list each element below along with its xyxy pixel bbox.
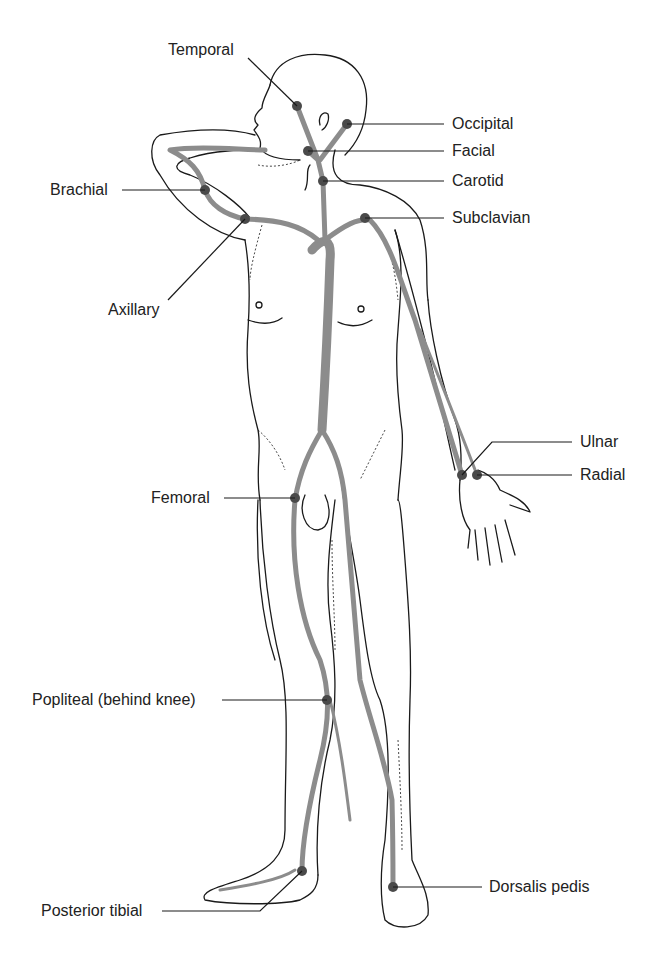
- label-dorsalis-pedis: Dorsalis pedis: [489, 879, 589, 895]
- label-brachial: Brachial: [50, 182, 108, 198]
- label-occipital: Occipital: [452, 116, 513, 132]
- pulse-points-diagram: Temporal Occipital Facial Carotid Subcla…: [0, 0, 665, 956]
- pulse-point-dots: [200, 101, 482, 892]
- label-posterior-tibial: Posterior tibial: [41, 903, 142, 919]
- label-temporal: Temporal: [168, 42, 234, 58]
- leader-lines: [122, 58, 572, 911]
- body-illustration: [0, 0, 665, 956]
- label-femoral: Femoral: [151, 490, 210, 506]
- label-axillary: Axillary: [108, 302, 160, 318]
- label-ulnar: Ulnar: [580, 434, 618, 450]
- label-subclavian: Subclavian: [452, 210, 530, 226]
- label-radial: Radial: [580, 467, 625, 483]
- label-facial: Facial: [452, 143, 495, 159]
- label-popliteal: Popliteal (behind knee): [32, 692, 196, 708]
- label-carotid: Carotid: [452, 173, 504, 189]
